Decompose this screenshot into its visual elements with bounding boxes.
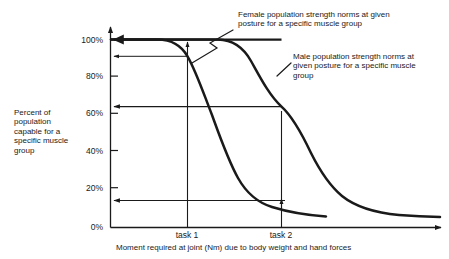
chart-figure: 100% 80% 60% 40% 20% 0% task 1 task 2 Pe… [0, 0, 449, 259]
y-tick-label-80: 80% [73, 71, 103, 81]
y-axis-title-line-3: capable for a [14, 127, 60, 136]
y-tick-label-60: 60% [73, 108, 103, 118]
reading-guide-lines [114, 40, 285, 208]
y-tick-label-0: 0% [73, 222, 103, 232]
male-annotation-line-2: given posture for a specific muscle [293, 61, 416, 70]
male-leader-line [277, 63, 291, 76]
task-guide-lines [188, 42, 282, 228]
y-axis-title-line-5: group [14, 146, 34, 155]
male-annotation-text: Male population strength norms atgiven p… [293, 52, 416, 80]
y-axis-title: Percent ofpopulationcapable for aspecifi… [14, 108, 68, 155]
female-annotation-text: Female population strength norms at give… [238, 10, 390, 29]
y-axis-title-line-1: Percent of [14, 108, 50, 117]
female-annotation-line-1: Female population strength norms at give… [238, 10, 390, 19]
y-tick-marks [111, 76, 119, 188]
y-tick-label-20: 20% [73, 183, 103, 193]
annotation-leaders [192, 30, 291, 76]
x-tick-label-task2: task 2 [258, 230, 304, 240]
male-annotation-line-1: Male population strength norms at [293, 52, 414, 61]
y-axis-title-line-4: specific muscle [14, 136, 68, 145]
y-tick-label-100: 100% [73, 35, 103, 45]
male-annotation-line-3: group [293, 71, 313, 80]
x-axis-title: Moment required at joint (Nm) due to bod… [116, 243, 351, 252]
x-tick-label-task1: task 1 [164, 230, 210, 240]
female-annotation-line-2: posture for a specific muscle group [238, 19, 362, 28]
y-tick-label-40: 40% [73, 146, 103, 156]
female-leader-line [192, 30, 233, 63]
y-axis-title-line-2: population [14, 117, 51, 126]
